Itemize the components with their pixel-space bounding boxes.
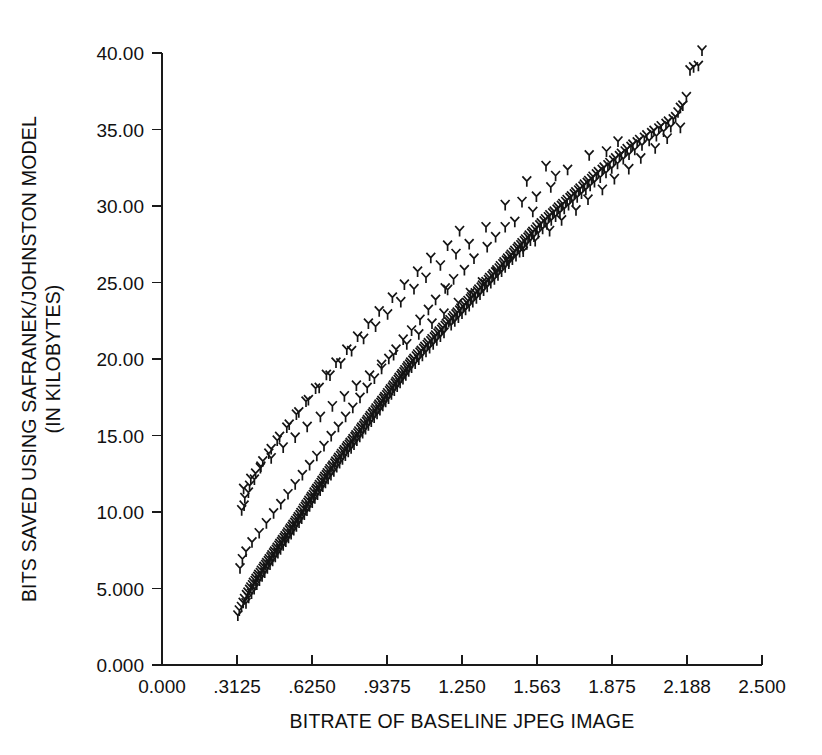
data-point-marker	[291, 433, 300, 443]
x-tick-label: 1.563	[513, 676, 561, 697]
data-point-marker	[572, 205, 581, 215]
data-point-marker	[248, 537, 257, 547]
data-point-marker	[370, 374, 379, 384]
data-point-marker	[262, 518, 271, 528]
data-point-marker	[482, 222, 491, 232]
plot-canvas: 0.0005.00010.0015.0020.0025.0030.0035.00…	[0, 0, 822, 755]
data-point-marker	[522, 176, 531, 186]
data-point-marker	[312, 451, 321, 461]
data-point-marker	[698, 46, 707, 56]
y-tick-label: 15.00	[96, 426, 144, 447]
data-point-marker	[279, 443, 288, 453]
data-point-marker	[328, 401, 337, 411]
data-point-marker	[542, 161, 551, 171]
data-point-marker	[546, 182, 555, 192]
data-point-marker	[545, 226, 554, 236]
data-point-marker	[284, 489, 293, 499]
data-point-marker	[236, 563, 245, 573]
data-point-marker	[424, 305, 433, 315]
data-point-marker	[400, 280, 409, 290]
y-tick-label: 35.00	[96, 120, 144, 141]
scatter-plot-figure: 0.0005.00010.0015.0020.0025.0030.0035.00…	[0, 0, 822, 755]
ticks-group: 0.0005.00010.0015.0020.0025.0030.0035.00…	[96, 43, 785, 697]
y-tick-label: 25.00	[96, 273, 144, 294]
y-tick-label: 20.00	[96, 349, 144, 370]
data-point-marker	[255, 528, 264, 538]
data-point-marker	[291, 479, 300, 489]
data-point-marker	[416, 315, 425, 325]
data-point-marker	[501, 222, 510, 232]
data-point-marker	[557, 215, 566, 225]
data-point-marker	[531, 236, 540, 246]
data-point-marker	[563, 165, 572, 175]
data-point-marker	[518, 197, 527, 207]
data-point-marker	[371, 322, 380, 332]
data-point-marker	[340, 391, 349, 401]
data-point-marker	[676, 123, 685, 133]
data-point-marker	[305, 460, 314, 470]
data-point-marker	[431, 295, 440, 305]
x-tick-label: .6250	[288, 676, 336, 697]
data-point-marker	[356, 393, 365, 403]
data-point-marker	[528, 207, 537, 217]
data-point-marker	[353, 332, 362, 342]
data-point-marker	[510, 217, 519, 227]
data-point-marker	[414, 329, 423, 339]
data-point-marker	[584, 195, 593, 205]
data-point-marker	[359, 334, 368, 344]
data-point-marker	[663, 133, 672, 143]
data-point-marker	[327, 431, 336, 441]
data-point-marker	[410, 284, 419, 294]
x-tick-label: 1.250	[438, 676, 486, 697]
data-point-marker	[348, 403, 357, 413]
data-point-marker	[276, 499, 285, 509]
data-point-marker	[384, 354, 393, 364]
y-tick-label: 30.00	[96, 196, 144, 217]
data-point-marker	[364, 319, 373, 329]
data-point-marker	[352, 381, 361, 391]
data-point-marker	[389, 350, 398, 360]
data-point-marker	[334, 422, 343, 432]
data-point-marker	[269, 508, 278, 518]
data-point-marker	[501, 200, 510, 210]
data-point-marker	[375, 306, 384, 316]
data-point-marker	[413, 267, 422, 277]
data-point-marker	[532, 192, 541, 202]
data-points-group	[233, 46, 706, 621]
data-point-marker	[383, 309, 392, 319]
data-point-marker	[483, 242, 492, 252]
y-tick-label: 5.000	[96, 579, 144, 600]
x-axis-title: BITRATE OF BASELINE JPEG IMAGE	[290, 710, 635, 732]
x-tick-label: 0.000	[138, 676, 186, 697]
x-tick-label: 1.875	[588, 676, 636, 697]
x-tick-label: 2.500	[738, 676, 786, 697]
x-tick-label: 2.188	[663, 676, 711, 697]
data-point-marker	[598, 185, 607, 195]
data-point-marker	[443, 241, 452, 251]
y-tick-label: 10.00	[96, 502, 144, 523]
y-axis-title-line1: BITS SAVED USING SAFRANEK/JOHNSTON MODEL	[18, 116, 40, 602]
data-point-marker	[388, 293, 397, 303]
data-point-marker	[422, 273, 431, 283]
data-point-marker	[682, 92, 691, 102]
data-point-marker	[624, 164, 633, 174]
data-point-marker	[465, 239, 474, 249]
data-point-marker	[426, 253, 435, 263]
data-point-marker	[363, 383, 372, 393]
data-point-marker	[470, 254, 479, 264]
data-point-marker	[298, 470, 307, 480]
data-point-marker	[585, 150, 594, 160]
data-point-marker	[238, 554, 247, 564]
data-point-marker	[436, 260, 445, 270]
data-point-marker	[491, 232, 500, 242]
y-tick-label: 40.00	[96, 43, 144, 64]
data-point-marker	[452, 249, 461, 259]
axes-group	[162, 53, 762, 665]
data-point-marker	[455, 226, 464, 236]
x-tick-label: .9375	[363, 676, 411, 697]
y-tick-label: 0.000	[96, 655, 144, 676]
data-point-marker	[551, 171, 560, 181]
data-point-marker	[651, 143, 660, 153]
x-tick-label: .3125	[213, 676, 261, 697]
y-axis-title-line2: (IN KILOBYTES)	[42, 284, 64, 433]
